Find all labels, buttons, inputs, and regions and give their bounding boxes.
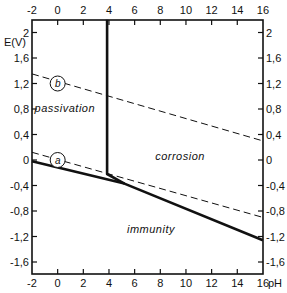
x-tick-label: 6	[132, 277, 138, 289]
x-tick-label: 14	[231, 277, 243, 289]
y-axis-label: E(V)	[4, 36, 26, 48]
region-label-corrosion: corrosion	[155, 150, 205, 162]
x-tick-label: 8	[157, 277, 163, 289]
line-tags: ab	[50, 76, 65, 168]
x-tick-label: 10	[180, 4, 192, 16]
x-tick-label: 4	[106, 277, 112, 289]
y-tick-label: 0,4	[14, 129, 29, 141]
y-tick-label: 1,6	[14, 52, 29, 64]
dashed-line-a	[32, 152, 263, 217]
line-tag-b: b	[55, 78, 61, 89]
y-tick-label: 0	[266, 154, 272, 166]
region-label-immunity: immunity	[127, 223, 176, 235]
y-tick-label: 1,6	[266, 52, 281, 64]
x-tick-label: 12	[205, 277, 217, 289]
plot-series	[32, 20, 263, 241]
y-tick-label: -0,4	[266, 180, 285, 192]
solid-boundary-line	[107, 20, 124, 184]
x-tick-label: 16	[257, 4, 269, 16]
plot-frame	[32, 20, 263, 274]
y-tick-label: 0,8	[14, 103, 29, 115]
x-tick-label: 12	[205, 4, 217, 16]
region-label-passivation: passivation	[34, 102, 96, 114]
x-tick-label: 2	[80, 4, 86, 16]
x-tick-label: -2	[27, 277, 37, 289]
y-tick-label: -1,2	[10, 231, 29, 243]
x-tick-label: -2	[27, 4, 37, 16]
y-tick-label: -0,8	[10, 205, 29, 217]
x-axis-top: -20246810121416	[27, 4, 269, 25]
x-axis-bottom: -20246810121416	[27, 269, 269, 289]
y-tick-label: 2	[266, 27, 272, 39]
x-tick-label: 0	[55, 277, 61, 289]
y-tick-label: 0,4	[266, 129, 281, 141]
x-tick-label: 14	[231, 4, 243, 16]
y-tick-label: -1,6	[266, 256, 285, 268]
y-tick-label: 0	[23, 154, 29, 166]
pourbaix-diagram: -20246810121416 -20246810121416 21,61,20…	[0, 0, 287, 293]
y-axis-left: 21,61,20,80,40-0,4-0,8-1,2-1,6	[10, 27, 37, 269]
x-tick-label: 10	[180, 277, 192, 289]
y-tick-label: -0,8	[266, 205, 285, 217]
y-tick-label: 1,2	[14, 78, 29, 90]
x-tick-label: 4	[106, 4, 112, 16]
x-axis-label: pH	[268, 277, 282, 289]
line-tag-a: a	[55, 155, 61, 166]
y-tick-label: -0,4	[10, 180, 29, 192]
y-tick-label: 0,8	[266, 103, 281, 115]
y-axis-right: 21,61,20,80,40-0,4-0,8-1,2-1,6	[258, 27, 285, 269]
y-tick-label: -1,2	[266, 231, 285, 243]
y-tick-label: -1,6	[10, 256, 29, 268]
x-tick-label: 2	[80, 277, 86, 289]
x-tick-label: 6	[132, 4, 138, 16]
x-tick-label: 0	[55, 4, 61, 16]
y-tick-label: 1,2	[266, 78, 281, 90]
x-tick-label: 8	[157, 4, 163, 16]
